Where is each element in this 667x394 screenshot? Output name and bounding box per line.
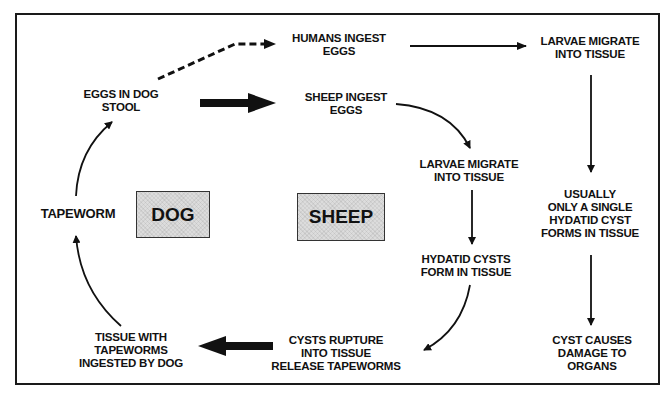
arrow-eggs-to-sheep xyxy=(200,93,276,113)
node-cyst-causes-damage: CYST CAUSES DAMAGE TO ORGANS xyxy=(552,334,632,373)
node-eggs-in-dog-stool: EGGS IN DOG STOOL xyxy=(83,88,158,114)
node-larvae-migrate-sheep: LARVAE MIGRATE INTO TISSUE xyxy=(420,158,519,184)
node-sheep-ingest-eggs: SHEEP INGEST EGGS xyxy=(305,91,387,117)
node-single-hydatid-cyst: USUALLY ONLY A SINGLE HYDATID CYST FORMS… xyxy=(541,188,639,240)
arrow-sheep-to-larvae xyxy=(396,104,470,148)
arrow-tissue-to-tapeworm xyxy=(76,236,121,326)
host-box-dog: DOG xyxy=(136,191,210,238)
node-hydatid-cysts-form: HYDATID CYSTS FORM IN TISSUE xyxy=(421,253,511,279)
node-tissue-ingested-by-dog: TISSUE WITH TAPEWORMS INGESTED BY DOG xyxy=(79,331,183,370)
host-box-sheep: SHEEP xyxy=(297,193,385,241)
node-cysts-rupture: CYSTS RUPTURE INTO TISSUE RELEASE TAPEWO… xyxy=(271,334,400,373)
node-tapeworm: TAPEWORM xyxy=(41,207,116,220)
node-humans-ingest-eggs: HUMANS INGEST EGGS xyxy=(292,32,386,58)
node-larvae-migrate-human: LARVAE MIGRATE INTO TISSUE xyxy=(541,35,640,61)
arrow-tapeworm-to-eggs xyxy=(76,122,112,196)
arrow-cysts-to-rupture xyxy=(424,285,470,350)
arrow-eggs-to-humans xyxy=(158,39,276,79)
arrow-rupture-to-tissue xyxy=(198,336,273,356)
